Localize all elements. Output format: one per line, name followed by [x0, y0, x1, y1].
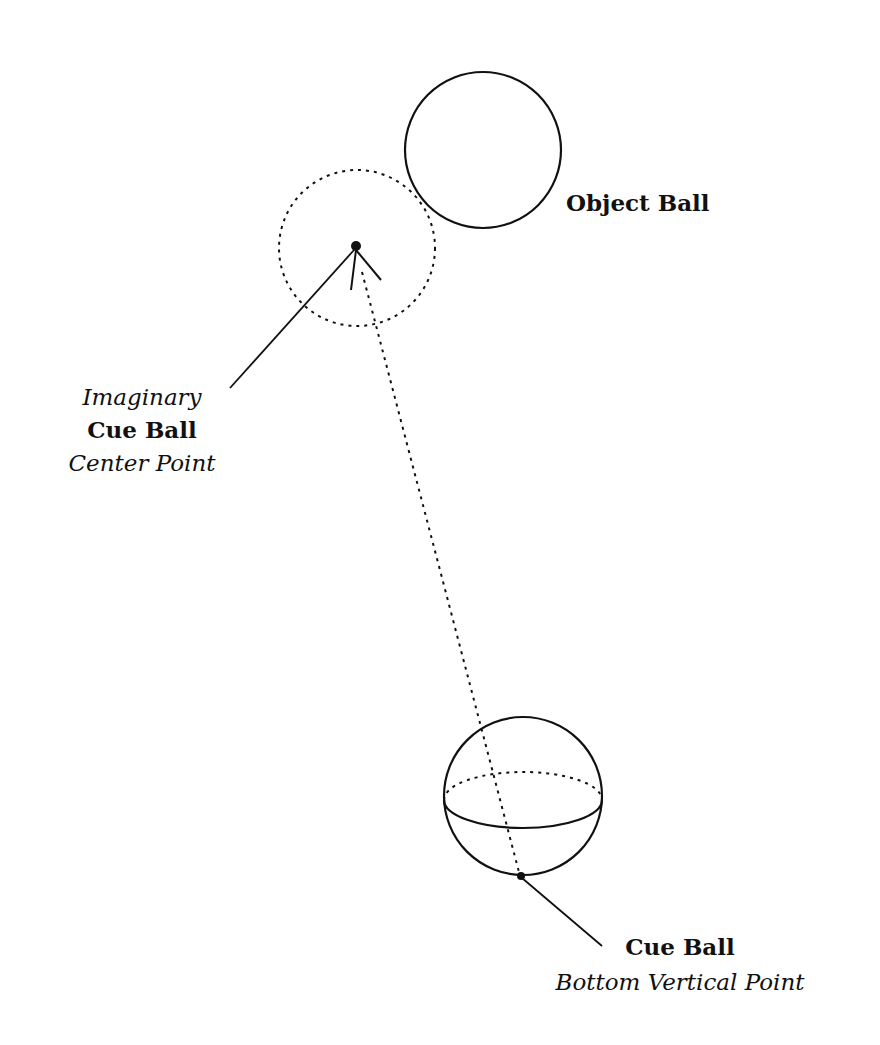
- cue-ball-label-line1: Cue Ball: [625, 933, 735, 960]
- leader-line-cue-ball: [522, 878, 602, 946]
- imaginary-label-line1: Imaginary: [81, 384, 202, 410]
- cue-ball-label-line2: Bottom Vertical Point: [555, 969, 806, 995]
- cue-ball: [444, 717, 602, 875]
- billiards-aiming-diagram: Object Ball Imaginary Cue Ball Center Po…: [0, 0, 880, 1045]
- imaginary-label-line3: Center Point: [69, 450, 217, 476]
- center-point-dot: [351, 241, 361, 251]
- object-ball-label: Object Ball: [566, 189, 710, 216]
- cue-ball-equator-back: [444, 772, 602, 800]
- arrow-barb-right: [356, 250, 381, 280]
- leader-line-imaginary: [230, 250, 354, 388]
- arrow-barb-left: [351, 250, 356, 290]
- aim-line: [362, 272, 520, 876]
- cue-ball-equator-front: [444, 800, 602, 828]
- imaginary-label-line2: Cue Ball: [87, 416, 197, 443]
- object-ball: [405, 72, 561, 228]
